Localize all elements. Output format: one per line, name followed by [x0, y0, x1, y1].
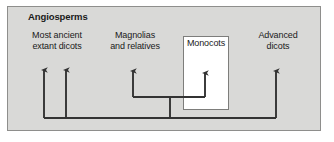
cladogram-branches	[0, 0, 334, 142]
angiosperm-cladogram-figure: Angiosperms Most ancient extant dicots M…	[0, 0, 334, 142]
